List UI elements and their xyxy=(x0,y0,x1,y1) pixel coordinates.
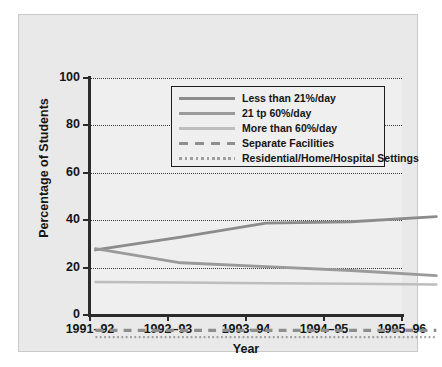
x-axis-title: Year xyxy=(90,342,402,356)
x-tick-label-1992-93: 1992–93 xyxy=(131,323,205,337)
legend-label-1: 21 tp 60%/day xyxy=(242,108,311,119)
gridline-100 xyxy=(90,78,402,79)
y-tick-label-60: 60 xyxy=(46,166,80,179)
y-axis-line xyxy=(88,76,91,317)
legend-item-4: Residential/Home/Hospital Settings xyxy=(172,151,384,166)
y-tick-label-40: 40 xyxy=(46,213,80,226)
x-tick-label-1991-92: 1991–92 xyxy=(53,323,127,337)
x-tick-1993-94 xyxy=(245,314,247,321)
x-tick-1991-92 xyxy=(89,314,91,321)
legend-item-2: More than 60%/day xyxy=(172,121,384,136)
y-tick-60 xyxy=(83,172,89,174)
chart-panel: 100 80 60 40 20 0 1991–92 1992–93 1993–9… xyxy=(18,14,418,352)
legend-item-0: Less than 21%/day xyxy=(172,91,384,106)
legend-swatch-line-icon-0 xyxy=(179,92,235,106)
y-tick-40 xyxy=(83,219,89,221)
legend-label-2: More than 60%/day xyxy=(242,123,337,134)
legend-swatch-line-icon-1 xyxy=(179,107,235,121)
y-tick-100 xyxy=(83,77,89,79)
y-axis-title: Percentage of Students xyxy=(37,83,51,253)
legend: Less than 21%/day 21 tp 60%/day More tha… xyxy=(171,86,385,167)
gridline-40 xyxy=(90,220,402,221)
legend-label-3: Separate Facilities xyxy=(242,138,334,149)
y-tick-label-0: 0 xyxy=(46,308,80,321)
gridline-60 xyxy=(90,173,402,174)
x-tick-1992-93 xyxy=(167,314,169,321)
y-tick-label-100: 100 xyxy=(46,71,80,84)
gridline-20 xyxy=(90,268,402,269)
legend-swatch-dotted-icon-4 xyxy=(179,152,235,166)
x-tick-1994-95 xyxy=(323,314,325,321)
y-tick-label-20: 20 xyxy=(46,261,80,274)
x-tick-label-1994-95: 1994–95 xyxy=(287,323,361,337)
legend-label-4: Residential/Home/Hospital Settings xyxy=(242,153,419,164)
y-tick-80 xyxy=(83,124,89,126)
legend-label-0: Less than 21%/day xyxy=(242,93,336,104)
legend-item-1: 21 tp 60%/day xyxy=(172,106,384,121)
legend-item-3: Separate Facilities xyxy=(172,136,384,151)
x-tick-label-1995-96: 1995–96 xyxy=(365,323,439,337)
y-tick-label-80: 80 xyxy=(46,118,80,131)
legend-swatch-line-icon-2 xyxy=(179,122,235,136)
y-tick-20 xyxy=(83,267,89,269)
legend-swatch-dashed-icon-3 xyxy=(179,137,235,151)
x-tick-1995-96 xyxy=(401,314,403,321)
x-tick-label-1993-94: 1993–94 xyxy=(209,323,283,337)
